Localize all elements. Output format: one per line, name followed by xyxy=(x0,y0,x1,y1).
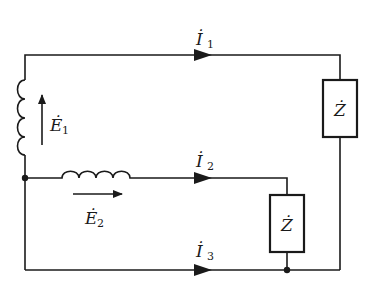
top-wire xyxy=(25,55,340,80)
svg-text:1: 1 xyxy=(207,38,214,51)
svg-text:İ: İ xyxy=(195,151,203,171)
svg-text:İ: İ xyxy=(195,29,203,49)
svg-text:2: 2 xyxy=(207,160,214,173)
current-arrow-i3 xyxy=(194,264,212,276)
svg-text:1: 1 xyxy=(62,124,69,137)
label-i2: İ 2 xyxy=(195,151,214,173)
svg-text:3: 3 xyxy=(207,250,214,263)
label-e2: Ė 2 xyxy=(84,208,104,230)
label-z-right: Ż xyxy=(333,100,347,120)
current-arrow-i2 xyxy=(194,172,212,184)
junction-node-bottom xyxy=(284,267,290,273)
left-inductor xyxy=(18,80,26,155)
label-e1: Ė 1 xyxy=(49,115,69,137)
svg-text:2: 2 xyxy=(97,217,104,230)
middle-wire xyxy=(25,171,287,195)
label-z-lower: Ż xyxy=(280,215,294,235)
label-i3: İ 3 xyxy=(195,241,214,263)
svg-text:İ: İ xyxy=(195,241,203,261)
svg-text:Ė: Ė xyxy=(49,115,63,135)
label-i1: İ 1 xyxy=(195,29,214,51)
circuit-diagram: İ 1 İ 2 İ 3 Ė 1 Ė 2 Ż Ż xyxy=(0,0,376,302)
svg-text:Ė: Ė xyxy=(84,208,98,228)
